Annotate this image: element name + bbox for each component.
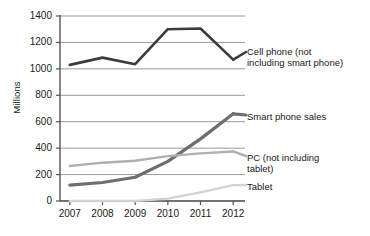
y-tick-label: 0 (18, 196, 52, 206)
line-chart: Millions 1400120010008006004002000 20072… (0, 0, 370, 236)
y-tick-label: 600 (18, 117, 52, 127)
y-tick-label: 1200 (18, 37, 52, 47)
y-tick-label: 200 (18, 170, 52, 180)
y-tick-label: 400 (18, 143, 52, 153)
series-group (70, 29, 246, 201)
series-leader-0 (233, 52, 246, 60)
y-tick-label: 1400 (18, 11, 52, 21)
series-line-3 (70, 185, 233, 201)
series-label-pc: PC (not including tablet) (247, 152, 365, 174)
y-tick-label: 800 (18, 90, 52, 100)
series-line-2 (70, 151, 233, 166)
y-tick-label: 1000 (18, 64, 52, 74)
series-line-0 (70, 29, 233, 65)
x-tick-label: 2012 (213, 209, 253, 219)
series-label-cell-phone: Cell phone (not including smart phone) (247, 46, 365, 68)
series-leader-1 (233, 114, 246, 115)
series-leader-2 (233, 151, 246, 156)
series-label-tablet: Tablet (247, 181, 365, 192)
series-label-smart-phone: Smart phone sales (247, 111, 365, 122)
